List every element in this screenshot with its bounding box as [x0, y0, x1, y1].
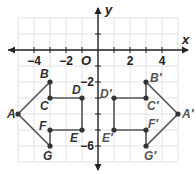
point-label: C′: [147, 99, 160, 113]
point-g: [47, 143, 52, 148]
point-label: G′: [144, 149, 157, 163]
y-axis-down-arrow-icon: [95, 164, 102, 171]
y-tick-label: −2: [80, 75, 94, 89]
y-axis-title: y: [104, 2, 113, 17]
point-label: D: [72, 83, 81, 97]
point-a: [15, 111, 20, 116]
y-axis-up-arrow-icon: [95, 7, 102, 14]
point-label: B: [40, 67, 49, 81]
point-e: [79, 127, 84, 132]
x-tick-label: −2: [59, 54, 73, 68]
point-label: E: [70, 131, 79, 145]
point-label: A: [6, 107, 16, 121]
point-g-prime: [143, 143, 148, 148]
point-label: C: [40, 99, 49, 113]
x-tick-label: −4: [27, 54, 41, 68]
point-label: B′: [150, 71, 163, 85]
point-label: F′: [148, 117, 159, 131]
point-label: E′: [102, 131, 114, 145]
x-axis-right-arrow-icon: [182, 47, 189, 54]
point-label: D′: [100, 87, 113, 101]
x-axis-left-arrow-icon: [8, 47, 15, 54]
x-tick-label: 4: [159, 54, 166, 68]
point-f: [47, 127, 52, 132]
x-tick-label: 2: [127, 54, 134, 68]
point-label: A′: [181, 107, 195, 121]
point-d-prime: [111, 95, 116, 100]
point-label: F: [39, 119, 47, 133]
origin-label: O: [81, 53, 91, 68]
y-tick-label: −6: [80, 139, 94, 153]
x-axis-title: x: [181, 32, 190, 47]
point-a-prime: [175, 111, 180, 116]
point-label: G: [43, 149, 52, 163]
coordinate-plane: −4−224−2−6OxyABCDEFGA′B′C′D′E′F′G′: [0, 0, 196, 174]
point-b-prime: [143, 79, 148, 84]
